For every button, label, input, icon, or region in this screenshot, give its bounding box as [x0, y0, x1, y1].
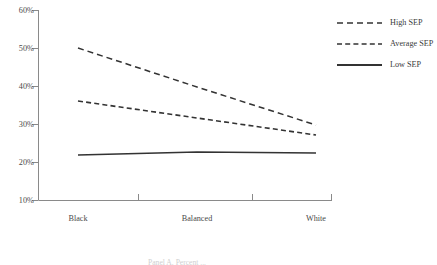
series-line-high-sep — [78, 48, 316, 125]
y-axis-label-10: 10% — [0, 196, 34, 205]
y-axis-label-60: 60% — [0, 6, 34, 15]
x-axis-label-black: Black — [68, 214, 87, 224]
y-axis-label-50: 50% — [0, 44, 34, 53]
legend-swatch-solid-icon — [337, 60, 382, 70]
x-axis-label-balanced: Balanced — [182, 214, 212, 224]
legend-label-high-sep: High SEP — [390, 18, 423, 28]
legend-swatch-dash-dot-icon — [337, 39, 382, 49]
y-axis-label-40: 40% — [0, 82, 34, 91]
legend-item-high-sep: High SEP — [337, 12, 437, 33]
x-axis-ticks — [139, 194, 332, 201]
x-axis-label-white: White — [306, 214, 326, 224]
y-axis-ticks — [32, 11, 39, 201]
legend-label-low-sep: Low SEP — [390, 60, 421, 70]
chart-legend: High SEP Average SEP Low SEP — [337, 12, 437, 75]
legend-label-average-sep: Average SEP — [390, 39, 433, 49]
legend-item-low-sep: Low SEP — [337, 54, 437, 75]
y-axis-label-20: 20% — [0, 158, 34, 167]
series-line-average-sep — [78, 101, 316, 135]
y-axis-label-30: 30% — [0, 120, 34, 129]
series-line-low-sep — [78, 152, 316, 155]
legend-swatch-dashed-icon — [337, 18, 382, 28]
legend-item-average-sep: Average SEP — [337, 33, 437, 54]
chart-container: 60% 50% 40% 30% 20% 10% Black Balanced W… — [0, 0, 437, 265]
figure-caption: Panel A. Percent ... — [148, 258, 206, 265]
